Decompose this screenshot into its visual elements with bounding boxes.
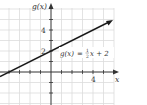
equation-label: g(x) = 1 2 x + 2: [59, 47, 114, 59]
equation-fn: g(x): [60, 50, 74, 58]
equation-den: 2: [86, 54, 89, 59]
line-arrow-icon: [106, 20, 113, 26]
x-axis: [0, 70, 116, 74]
x-axis-label: x: [115, 75, 120, 84]
equation-equals: =: [77, 50, 83, 58]
graph: g(x) 4 2 4 x g(x) = 1 2 x + 2: [0, 0, 147, 105]
y-tick-label-4: 4: [41, 26, 46, 35]
equation-rest: x + 2: [90, 50, 109, 58]
y-axis: [49, 8, 53, 105]
y-tick-label-2: 2: [41, 47, 46, 56]
x-axis-arrow-icon: [113, 70, 119, 75]
x-tick-label-4: 4: [91, 75, 96, 84]
equation-num: 1: [86, 48, 89, 53]
y-axis-arrow-icon: [49, 3, 54, 9]
y-axis-label: g(x): [32, 2, 47, 11]
